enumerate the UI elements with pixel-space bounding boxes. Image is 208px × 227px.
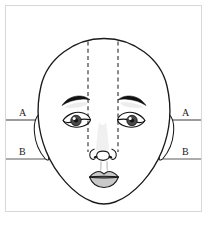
left-eye-highlight [73,117,76,120]
face-proportion-illustration [0,0,208,227]
reference-label-b-right: B [182,147,189,157]
reference-label-a-right: A [182,108,189,118]
right-eye-highlight [129,117,132,120]
nose-tip [97,151,110,160]
diagram-canvas: A A B B [0,0,208,227]
reference-label-a-left: A [19,108,26,118]
reference-label-b-left: B [19,147,26,157]
